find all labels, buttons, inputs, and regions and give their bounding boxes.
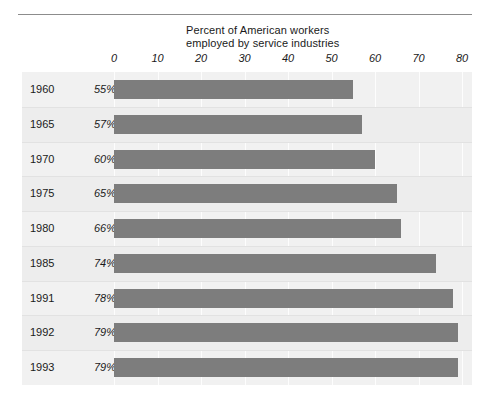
chart-row: 199379% — [22, 350, 472, 385]
chart-row: 198066% — [22, 211, 472, 246]
row-year-label: 1991 — [30, 281, 78, 316]
x-axis-tick-20: 20 — [181, 52, 221, 64]
row-separator — [22, 176, 472, 177]
row-percent-label: 66% — [80, 211, 116, 246]
row-year-label: 1960 — [30, 72, 78, 107]
row-separator — [22, 246, 472, 247]
row-percent-label: 60% — [80, 142, 116, 177]
chart-row: 197060% — [22, 142, 472, 177]
row-separator — [22, 142, 472, 143]
row-separator — [22, 350, 472, 351]
row-percent-label: 55% — [80, 72, 116, 107]
row-year-label: 1975 — [30, 176, 78, 211]
row-separator — [22, 107, 472, 108]
row-percent-label: 79% — [80, 315, 116, 350]
x-axis-tick-0: 0 — [94, 52, 134, 64]
x-axis-tick-60: 60 — [355, 52, 395, 64]
x-axis-tick-40: 40 — [268, 52, 308, 64]
bar — [114, 115, 362, 134]
chart-title: Percent of American workers employed by … — [186, 24, 416, 50]
chart-row: 197565% — [22, 176, 472, 211]
chart-row: 196557% — [22, 107, 472, 142]
bar — [114, 323, 458, 342]
chart-row: 198574% — [22, 246, 472, 281]
row-year-label: 1993 — [30, 350, 78, 385]
chart-row: 196055% — [22, 72, 472, 107]
x-axis-tick-10: 10 — [138, 52, 178, 64]
bar — [114, 80, 353, 99]
row-year-label: 1970 — [30, 142, 78, 177]
row-percent-label: 65% — [80, 176, 116, 211]
row-year-label: 1980 — [30, 211, 78, 246]
x-axis-tick-30: 30 — [225, 52, 265, 64]
bar — [114, 358, 458, 377]
top-rule-divider — [18, 14, 472, 15]
x-axis-tick-70: 70 — [399, 52, 439, 64]
chart-title-line-2: employed by service industries — [186, 37, 416, 50]
row-year-label: 1965 — [30, 107, 78, 142]
row-percent-label: 78% — [80, 281, 116, 316]
x-axis-tick-labels: 01020304050607080 — [0, 52, 489, 68]
row-year-label: 1992 — [30, 315, 78, 350]
plot-area: 196055%196557%197060%197565%198066%19857… — [22, 72, 472, 385]
x-axis-tick-80: 80 — [442, 52, 482, 64]
x-axis-tick-50: 50 — [312, 52, 352, 64]
bar — [114, 150, 375, 169]
bar — [114, 219, 401, 238]
row-percent-label: 74% — [80, 246, 116, 281]
row-separator — [22, 211, 472, 212]
bar — [114, 184, 397, 203]
row-year-label: 1985 — [30, 246, 78, 281]
row-percent-label: 57% — [80, 107, 116, 142]
bar-chart-figure: Percent of American workers employed by … — [0, 0, 489, 404]
bar — [114, 254, 436, 273]
chart-row: 199178% — [22, 281, 472, 316]
chart-row: 199279% — [22, 315, 472, 350]
bar — [114, 289, 453, 308]
chart-title-line-1: Percent of American workers — [186, 24, 416, 37]
row-separator — [22, 281, 472, 282]
row-separator — [22, 315, 472, 316]
row-percent-label: 79% — [80, 350, 116, 385]
